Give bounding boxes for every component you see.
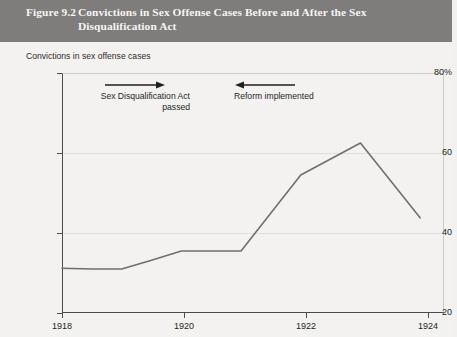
annotation-left-line-1: Sex Disqualification Act [42,91,190,102]
figure-number: Figure 9.2 [26,5,78,19]
figure-header-text: Figure 9.2Convictions in Sex Offense Cas… [26,5,438,33]
annotation-reform-implemented: Reform implemented [234,91,394,102]
series-line-convictions [0,42,452,337]
annotation-left-line-2: passed [42,102,190,113]
figure-title-line-2: Disqualification Act [78,19,438,33]
arrow-right-icon [104,80,166,90]
figure-header-banner: Figure 9.2Convictions in Sex Offense Cas… [0,0,452,42]
arrow-left-icon [234,80,296,90]
annotation-right-line-1: Reform implemented [234,91,394,102]
annotation-sex-disqualification-act: Sex Disqualification Act passed [42,91,190,113]
figure-title-line-1: Convictions in Sex Offense Cases Before … [78,6,366,18]
chart-area: Convictions in sex offense cases 80% 60 … [0,42,452,337]
